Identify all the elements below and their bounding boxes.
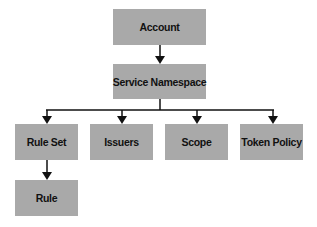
arrowhead-icon	[192, 116, 202, 124]
arrowhead-icon	[268, 116, 278, 124]
node-rule-set: Rule Set	[15, 124, 78, 160]
node-account: Account	[113, 9, 206, 45]
node-rule: Rule	[15, 180, 78, 216]
node-service-namespace: Service Namespace	[113, 64, 206, 99]
arrowhead-icon	[117, 116, 127, 124]
arrowhead-icon	[42, 116, 52, 124]
arrowhead-icon	[42, 172, 52, 180]
node-scope: Scope	[165, 124, 228, 160]
arrowhead-icon	[155, 56, 165, 64]
node-token-policy: Token Policy	[240, 124, 303, 160]
node-issuers: Issuers	[90, 124, 153, 160]
